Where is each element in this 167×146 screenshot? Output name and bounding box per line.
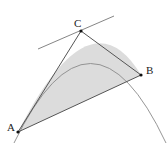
label-a: A: [7, 121, 15, 133]
parabola-diagram: A B C: [0, 0, 167, 146]
label-c: C: [74, 17, 81, 29]
point-c: [79, 29, 82, 32]
diagram-canvas: A B C: [0, 0, 167, 146]
label-b: B: [146, 64, 153, 76]
point-a: [16, 130, 19, 133]
point-b: [139, 73, 142, 76]
parabolic-segment-fill: [18, 43, 141, 132]
